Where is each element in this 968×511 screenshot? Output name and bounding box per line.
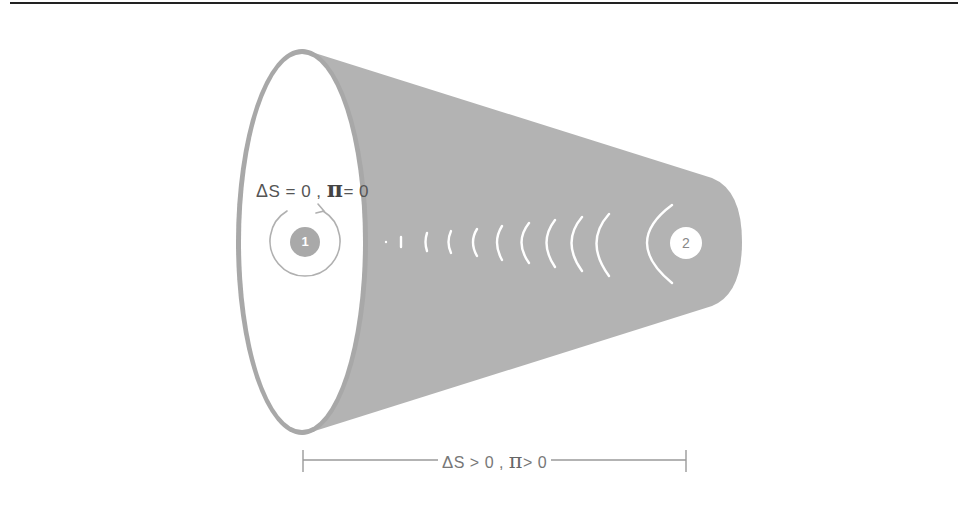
entropy-inequality: S > 0 , bbox=[454, 454, 509, 471]
pi-symbol: π bbox=[327, 176, 344, 202]
state-1-label: ΔS = 0 , π= 0 bbox=[256, 178, 369, 201]
pi-symbol: π bbox=[509, 449, 523, 473]
state-2-marker: 2 bbox=[670, 227, 702, 259]
pi-equation: = 0 bbox=[343, 182, 369, 201]
delta-symbol: Δ bbox=[442, 453, 454, 472]
state-1-marker: 1 bbox=[290, 227, 320, 257]
span-label: ΔS > 0 , π> 0 bbox=[438, 451, 551, 472]
pi-inequality: > 0 bbox=[523, 454, 547, 471]
wave-dot bbox=[385, 241, 387, 243]
entropy-cone-diagram bbox=[0, 0, 968, 511]
entropy-equation: S = 0 , bbox=[268, 182, 326, 201]
delta-symbol: Δ bbox=[256, 181, 268, 201]
